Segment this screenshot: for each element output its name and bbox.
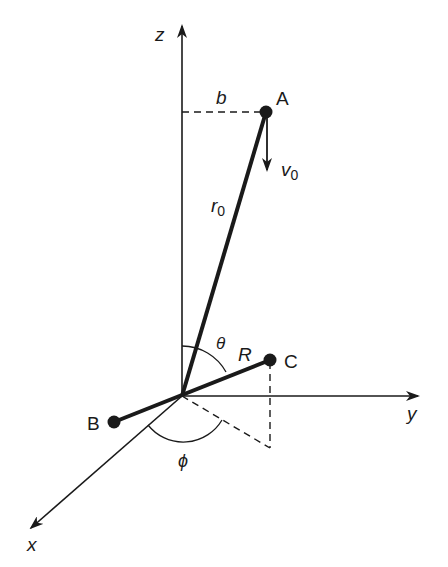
point-b-dot (108, 416, 121, 429)
x-axis (31, 396, 182, 528)
x-axis-label: x (26, 534, 38, 555)
phi-label: ϕ (178, 451, 188, 471)
r0-label: r0 (211, 195, 225, 219)
z-axis-label: z (154, 24, 165, 45)
impact-parameter-label: b (216, 87, 227, 108)
theta-label: θ (216, 334, 226, 353)
point-b-label: B (87, 413, 100, 434)
r-rod-bc (114, 360, 270, 422)
r0-vector (182, 112, 266, 396)
y-axis-label: y (405, 403, 418, 424)
coordinate-diagram: z y x A B C b v0 r0 θ R ϕ (0, 0, 448, 567)
point-a-label: A (276, 88, 289, 109)
point-c-dot (264, 354, 277, 367)
phi-angle-arc (148, 420, 222, 442)
r-separation-label: R (238, 344, 252, 365)
v0-label: v0 (281, 159, 299, 183)
point-a-dot (260, 106, 273, 119)
point-c-label: C (284, 351, 298, 372)
